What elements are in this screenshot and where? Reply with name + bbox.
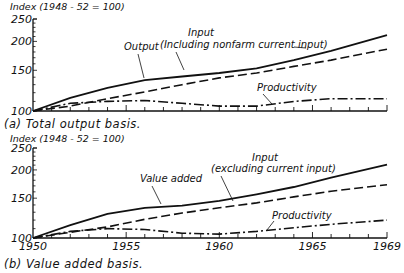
panel-b-caption: (b) Value added basis. <box>4 257 143 271</box>
x-tick-label: 1950 <box>19 240 47 253</box>
x-tick-label: 1969 <box>373 240 401 253</box>
series-line-productivity <box>33 99 387 111</box>
y-tick-label: 200 <box>11 164 32 177</box>
annotation-input-sub: (Including nonfarm current input) <box>160 39 328 50</box>
x-tick-label: 1955 <box>112 240 140 253</box>
panel-a-y-axis: 100150200250 <box>11 13 37 118</box>
leader-input <box>176 52 184 70</box>
x-tick-label: 1965 <box>298 240 326 253</box>
leader-input-b <box>221 176 233 201</box>
panel-b-annotations: Value added Input (excluding current inp… <box>140 152 336 230</box>
leader-value-added <box>152 186 161 204</box>
y-tick-label: 250 <box>11 13 32 26</box>
panel-a-caption: (a) Total output basis. <box>4 117 141 131</box>
annotation-input: Input <box>188 27 215 38</box>
panel-b-y-axis: 100150200250 <box>11 142 37 245</box>
annotation-output: Output <box>124 41 160 52</box>
x-tick-label: 1960 <box>205 240 233 253</box>
panel-a-ylabel: Index (1948 - 52 = 100) <box>10 1 125 12</box>
leader-output <box>138 54 144 78</box>
panel-a-x-axis <box>33 105 387 111</box>
productivity-chart: Index (1948 - 52 = 100) 100150200250 Out… <box>0 0 404 273</box>
annotation-productivity-b: Productivity <box>272 210 333 221</box>
series-line-input <box>33 49 387 111</box>
annotation-input-b-sub: (excluding current input) <box>211 163 336 174</box>
series-line-value <box>33 165 387 238</box>
panel-b-x-axis: 19501955196019651969 <box>19 232 401 253</box>
leader-productivity-b <box>267 221 274 230</box>
annotation-input-b: Input <box>252 152 279 163</box>
y-tick-label: 250 <box>11 142 32 155</box>
panel-a-total-output: Index (1948 - 52 = 100) 100150200250 Out… <box>4 1 387 131</box>
panel-b-series <box>33 165 387 238</box>
series-line-input <box>33 185 387 238</box>
annotation-value-added: Value added <box>140 173 203 184</box>
annotation-productivity: Productivity <box>257 82 318 93</box>
y-tick-label: 150 <box>11 192 32 205</box>
panel-b-value-added: Index (1948 - 52 = 100) 100150200250 195… <box>4 133 401 271</box>
y-tick-label: 200 <box>11 35 32 48</box>
y-tick-label: 150 <box>11 64 32 77</box>
series-line-productivity <box>33 220 387 238</box>
leader-productivity <box>263 94 272 104</box>
